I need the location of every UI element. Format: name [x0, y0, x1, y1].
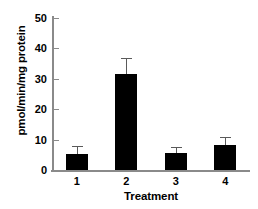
y-tick-0: 0: [52, 170, 59, 171]
x-tick-label-4: 4: [222, 176, 228, 187]
y-tick-label: 0: [41, 165, 47, 176]
x-axis-title: Treatment: [52, 190, 250, 202]
y-axis-line: [52, 16, 54, 170]
bar-2: [115, 74, 137, 170]
y-tick-50: 50: [52, 18, 59, 19]
x-tick-label-2: 2: [123, 176, 129, 187]
y-tick-mark: [54, 140, 59, 141]
y-tick-label: 50: [35, 13, 47, 24]
x-tick-label-3: 3: [173, 176, 179, 187]
y-tick-mark: [54, 18, 59, 19]
y-tick-mark: [54, 48, 59, 49]
error-bar-stem-1: [77, 146, 78, 154]
plot-area: 01020304050 1234: [52, 18, 250, 170]
y-tick-label: 10: [35, 134, 47, 145]
y-tick-10: 10: [52, 140, 59, 141]
y-tick-label: 40: [35, 43, 47, 54]
y-tick-mark: [54, 170, 59, 171]
bar-4: [214, 145, 236, 170]
error-bar-stem-3: [176, 147, 177, 154]
y-tick-label: 30: [35, 73, 47, 84]
x-tick-label-1: 1: [74, 176, 80, 187]
y-tick-20: 20: [52, 109, 59, 110]
y-tick-30: 30: [52, 79, 59, 80]
error-bar-cap-4: [220, 137, 231, 138]
y-tick-40: 40: [52, 48, 59, 49]
error-bar-cap-3: [171, 147, 182, 148]
bar-chart: pmol/min/mg protein 01020304050 1234 Tre…: [0, 0, 258, 209]
y-tick-mark: [54, 79, 59, 80]
error-bar-stem-2: [126, 58, 127, 75]
error-bar-cap-1: [72, 146, 83, 147]
y-tick-label: 20: [35, 104, 47, 115]
bar-3: [165, 153, 187, 170]
bar-1: [66, 154, 88, 170]
error-bar-cap-2: [121, 58, 132, 59]
y-tick-mark: [54, 109, 59, 110]
error-bar-stem-4: [225, 137, 226, 145]
y-axis-title: pmol/min/mg protein: [8, 0, 34, 185]
x-axis-line: [51, 170, 250, 172]
